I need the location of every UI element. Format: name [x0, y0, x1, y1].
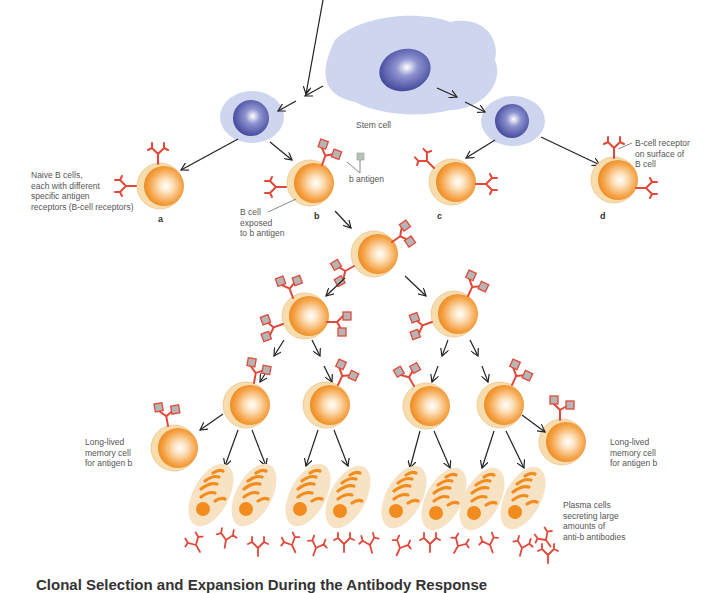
- cell-letter-c: c: [437, 211, 442, 221]
- plasma-cells: [179, 457, 555, 538]
- progenitor-cell-left: [220, 91, 284, 143]
- stem-cell-label: Stem cell: [356, 120, 391, 131]
- progenitor-cell-right: [481, 96, 545, 146]
- memory-cell-left-label: Long-lived memory cell for antigen b: [85, 437, 132, 469]
- secreted-antibodies: [182, 525, 559, 563]
- b-cell-gen3-2: [303, 359, 361, 428]
- arrows-gen3: [260, 340, 488, 382]
- b-cell-exposed-label: B cell exposed to b antigen: [240, 207, 284, 239]
- naive-b-cells-label: Naive B cells, each with different speci…: [31, 170, 134, 212]
- figure-caption: Clonal Selection and Expansion During th…: [36, 576, 487, 593]
- bcr-surface-label: B-cell receptor on surface of B cell: [635, 138, 690, 170]
- b-antigen-label: b antigen: [349, 174, 384, 185]
- cell-letter-a: a: [158, 214, 163, 224]
- memory-cell-right: [539, 396, 586, 465]
- memory-cell-right-label: Long-lived memory cell for antigen b: [610, 437, 657, 469]
- b-cell-gen2-right: [405, 270, 491, 340]
- stem-cell: [325, 16, 497, 115]
- memory-cell-left: [151, 400, 198, 471]
- b-cell-gen3-1: [223, 358, 272, 428]
- b-cell-b: [265, 139, 343, 206]
- plasma-cells-label: Plasma cells secreting large amounts of …: [563, 500, 625, 542]
- cell-letter-b: b: [314, 211, 320, 221]
- free-antigen-icon: [357, 153, 364, 160]
- b-cell-c: [412, 146, 497, 205]
- b-cell-gen3-3: [393, 358, 450, 429]
- cell-letter-d: d: [600, 211, 606, 221]
